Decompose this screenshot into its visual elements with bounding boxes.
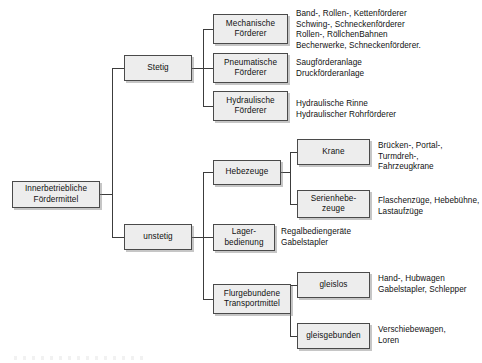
- note-serienhebezeuge: Flaschenzüge, Hebebühne, Lastaufzüge: [378, 196, 482, 217]
- note-hydraulische-foerderer: Hydraulische Rinne Hydraulischer Rohrför…: [296, 99, 482, 120]
- node-unstetig: unstetig: [124, 224, 192, 250]
- bottom-edge-artifact: [14, 356, 146, 360]
- node-lagerbedienung: Lager- bedienung: [213, 224, 275, 251]
- note-lagerbedienung: Regalbediengeräte Gabelstapler: [281, 227, 441, 248]
- node-flurgebundene-transportmittel: Flurgebundene Transportmittel: [213, 284, 291, 314]
- note-mechanische-foerderer: Band-, Rollen-, Kettenförderer Schwing-,…: [296, 9, 482, 51]
- node-gleisgebunden: gleisgebunden: [297, 323, 370, 349]
- node-pneumatische-foerderer: Pneumatische Förderer: [213, 53, 288, 83]
- note-gleislos: Hand-, Hubwagen Gabelstapler, Schlepper: [378, 274, 482, 295]
- note-krane: Brücken-, Portal-, Turmdreh-, Fahrzeugkr…: [378, 141, 482, 173]
- node-krane: Krane: [297, 139, 370, 165]
- diagram-canvas: Innerbetriebliche Fördermittel Stetig un…: [0, 0, 482, 363]
- note-gleisgebunden: Verschiebewagen, Loren: [378, 325, 482, 346]
- node-hebezeuge: Hebezeuge: [213, 160, 281, 185]
- node-hydraulische-foerderer: Hydraulische Förderer: [213, 91, 288, 121]
- node-serienhebezeuge: Serienhebe- zeuge: [297, 190, 370, 218]
- node-root: Innerbetriebliche Fördermittel: [12, 181, 100, 208]
- note-pneumatische-foerderer: Saugförderanlage Druckförderanlage: [296, 58, 482, 79]
- node-gleislos: gleislos: [297, 272, 370, 298]
- node-mechanische-foerderer: Mechanische Förderer: [213, 14, 288, 44]
- node-stetig: Stetig: [124, 55, 192, 81]
